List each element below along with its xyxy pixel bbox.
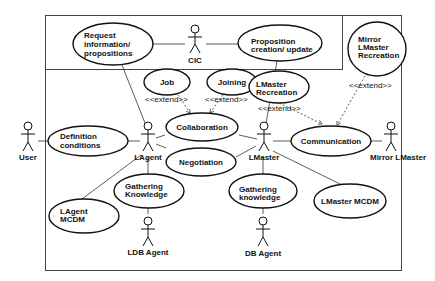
actor-icon[interactable] [141, 217, 155, 246]
usecase-label: Recreation [256, 88, 297, 97]
usecase-label: LMaster MCDM [321, 197, 379, 206]
actor-label-lagent: LAgent [134, 153, 162, 162]
usecase-label: Job [160, 78, 174, 87]
actor-label-user: User [19, 153, 37, 162]
extend-label: <<extend>> [258, 104, 301, 113]
usecase-label: knowledge [239, 193, 281, 202]
usecase-label: information/ [84, 40, 131, 49]
usecase-label: creation/ update [251, 45, 313, 54]
usecase-label: propositions [84, 49, 133, 58]
actor-icon[interactable] [21, 122, 35, 151]
actor-icon[interactable] [384, 122, 398, 151]
actor-icon[interactable] [188, 25, 202, 53]
extend-label: <<extend>> [145, 95, 188, 104]
usecase-label: Recreation [358, 51, 399, 60]
usecase-label: Collaboration [176, 123, 228, 132]
actor-label-cic: CIC [188, 56, 202, 65]
extend-label: <<extend>> [205, 95, 248, 104]
actor-icon[interactable] [256, 217, 270, 246]
actor-label-lmaster: LMaster [249, 153, 280, 162]
usecase-label: MCDM [60, 215, 85, 224]
usecase-label: Joining [218, 78, 247, 87]
usecase-label: Request [84, 31, 116, 40]
usecase-label: Knowledge [125, 190, 168, 199]
usecase-label: Negotiation [179, 158, 223, 167]
actor-label-db-agent: DB Agent [245, 249, 281, 258]
usecase-label: Communication [301, 137, 362, 146]
actor-label-ldb-agent: LDB Agent [127, 248, 168, 257]
actor-label-mirror-lmaster: Mirror LMaster [370, 153, 426, 162]
extend-label: <<extend>> [349, 81, 392, 90]
usecase-label: conditions [60, 141, 101, 150]
use-case-diagram: Request information/ propositions Propos… [0, 0, 435, 281]
actor-icon[interactable] [257, 122, 271, 151]
actor-icon[interactable] [141, 122, 155, 151]
usecase-label: Definition [60, 132, 97, 141]
